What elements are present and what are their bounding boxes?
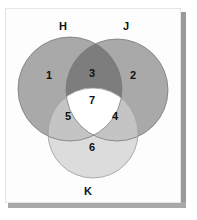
set-label-h: H [59, 20, 67, 32]
region-label-3: 3 [89, 67, 95, 79]
venn-diagram: H J K 1 2 3 4 5 6 7 [0, 0, 197, 220]
set-label-k: K [84, 185, 92, 197]
region-label-1: 1 [46, 69, 52, 81]
region-label-7: 7 [89, 94, 95, 106]
region-label-5: 5 [65, 110, 71, 122]
region-label-2: 2 [130, 69, 136, 81]
set-label-j: J [123, 20, 129, 32]
region-label-4: 4 [112, 110, 119, 122]
region-label-6: 6 [89, 141, 95, 153]
